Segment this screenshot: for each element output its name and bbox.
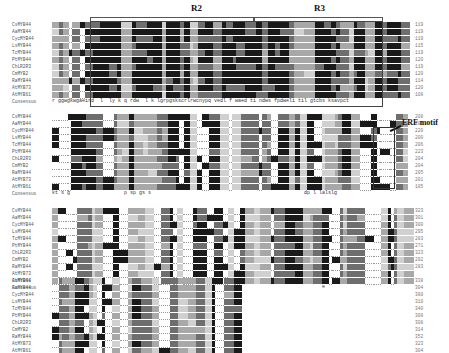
sequence-name: AtMYB73: [12, 270, 31, 277]
region-label-r2: R2: [191, 3, 202, 13]
sequence-row: PtMYB44271: [0, 242, 449, 249]
sequence-row: CycMYB44300: [0, 221, 449, 228]
sequence-name: AaMYB44: [12, 284, 31, 291]
sequence-name: CmMYB2: [12, 326, 28, 333]
sequence-name: CmMYB2: [12, 162, 28, 169]
end-position: 292: [415, 256, 423, 263]
sequence-name: AtMYB61: [12, 347, 31, 353]
sequence-name: AaMYB44: [12, 120, 31, 127]
end-position: 120: [415, 56, 423, 63]
sequence-row: LsMYB44295: [0, 228, 449, 235]
sequence-row: CsMYB44208: [0, 113, 449, 120]
consensus-label: Consensus: [12, 190, 36, 197]
sequence-name: LsMYB44: [12, 228, 31, 235]
sequence-row: AtMYB73323: [0, 340, 449, 347]
end-position: 200: [415, 134, 423, 141]
sequence-name: AtMYB61: [12, 91, 31, 98]
sequence-name: ChLR2R3: [12, 249, 31, 256]
sequence-row: PtMYB44308: [0, 312, 449, 319]
sequence-name: CsMYB44: [12, 207, 31, 214]
sequence-name: AtMYB73: [12, 84, 31, 91]
sequence-name: PtMYB44: [12, 148, 31, 155]
end-position: 301: [415, 214, 423, 221]
sequence-name: TcMYB44: [12, 49, 31, 56]
sequence-row: RaMYB44352: [0, 333, 449, 340]
sequence-name: CycMYB44: [12, 291, 34, 298]
consensus-sequence: kt s g p sp gs s dp l lalslg: [52, 190, 337, 197]
end-position: 323: [415, 207, 423, 214]
sequence-name: ChLR2R3: [12, 63, 31, 70]
end-position: 204: [415, 162, 423, 169]
sequence-row: ChLR2R3308: [0, 319, 449, 326]
sequence-name: PtMYB44: [12, 56, 31, 63]
end-position: 304: [415, 284, 423, 291]
r2r3-domain-frame: [90, 21, 383, 107]
end-position: 119: [415, 35, 423, 42]
end-position: 314: [415, 326, 423, 333]
end-position: 380: [415, 291, 423, 298]
sequence-name: CsMYB44: [12, 277, 31, 284]
sequence-name: RaMYB44: [12, 263, 31, 270]
erf-motif-label: ERF motif: [402, 118, 438, 127]
end-position: 114: [415, 77, 423, 84]
end-position: 308: [415, 319, 423, 326]
end-position: 300: [415, 221, 423, 228]
sequence-row: TcMYB44340: [0, 305, 449, 312]
sequence-name: PtMYB44: [12, 312, 31, 319]
sequence-name: RaMYB44: [12, 333, 31, 340]
end-position: 220: [415, 127, 423, 134]
sequence-name: ChLR2R3: [12, 155, 31, 162]
sequence-row: ChLR2R3323: [0, 249, 449, 256]
erf-motif-box: [373, 127, 395, 189]
end-position: 310: [415, 298, 423, 305]
sequence-name: AtMYB73: [12, 340, 31, 347]
end-position: 206: [415, 141, 423, 148]
end-position: 119: [415, 28, 423, 35]
end-position: 115: [415, 42, 423, 49]
end-position: 323: [415, 340, 423, 347]
sequence-name: LsMYB44: [12, 42, 31, 49]
sequence-name: TcMYB44: [12, 235, 31, 242]
sequence-name: CycMYB44: [12, 35, 34, 42]
end-position: 201: [415, 176, 423, 183]
end-position: 223: [415, 148, 423, 155]
end-position: 271: [415, 242, 423, 249]
consensus-label: Consensus: [12, 98, 36, 105]
end-position: 308: [415, 312, 423, 319]
sequence-row: RaMYB44283: [0, 263, 449, 270]
end-position: 185: [415, 183, 423, 190]
sequence-row: LsMYB44310: [0, 298, 449, 305]
sequence-row: CmMYB2292: [0, 256, 449, 263]
end-position: 205: [415, 169, 423, 176]
sequence-name: CsMYB44: [12, 21, 31, 28]
sequence-name: CmMYB2: [12, 70, 28, 77]
sequence-row: CmMYB2314: [0, 326, 449, 333]
sequence-name: LsMYB44: [12, 298, 31, 305]
end-position: 120: [415, 84, 423, 91]
sequence-row: AaMYB44304: [0, 284, 449, 291]
sequence-name: ChLR2R3: [12, 319, 31, 326]
end-position: 304: [415, 347, 423, 353]
sequence-row: AtMYB61304: [0, 347, 449, 353]
end-position: 120: [415, 70, 423, 77]
region-label-r3: R3: [314, 3, 325, 13]
sequence-row: TcMYB44283: [0, 235, 449, 242]
sequence-name: LsMYB44: [12, 134, 31, 141]
sequence-name: CycMYB44: [12, 221, 34, 228]
sequence-name: RaMYB44: [12, 77, 31, 84]
sequence-name: TcMYB44: [12, 305, 31, 312]
end-position: 295: [415, 228, 423, 235]
end-position: 338: [415, 277, 423, 284]
sequence-name: RaMYB44: [12, 169, 31, 176]
end-position: 108: [415, 91, 423, 98]
end-position: 340: [415, 305, 423, 312]
end-position: 283: [415, 235, 423, 242]
sequence-row: CsMYB44323: [0, 207, 449, 214]
end-position: 119: [415, 63, 423, 70]
end-position: 283: [415, 263, 423, 270]
sequence-row: AtMYB73: [0, 270, 449, 277]
end-position: 352: [415, 333, 423, 340]
sequence-name: TcMYB44: [12, 141, 31, 148]
sequence-name: PtMYB44: [12, 242, 31, 249]
sequence-name: AtMYB61: [12, 183, 31, 190]
